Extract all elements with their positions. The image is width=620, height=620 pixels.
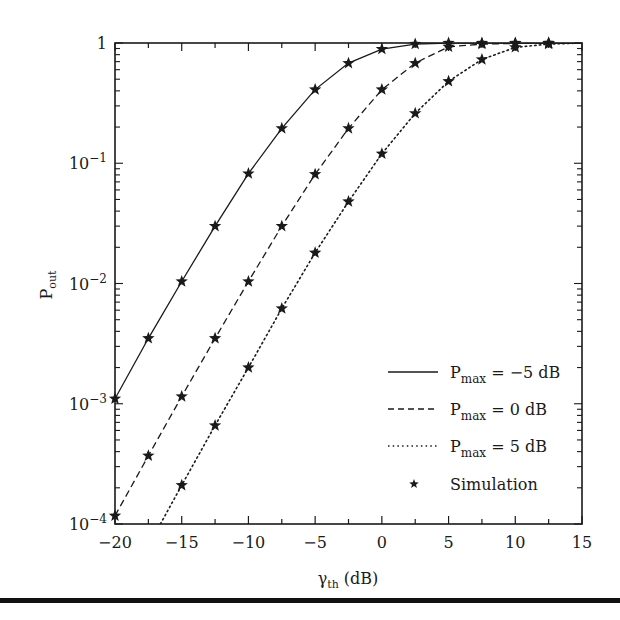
legend-label: Pmax = −5 dB: [450, 363, 560, 386]
y-tick-label: 10−3: [69, 392, 107, 414]
chart-legend: Pmax = −5 dBPmax = 0 dBPmax = 5 dBSimula…: [388, 363, 560, 494]
legend-item: Simulation: [409, 475, 537, 494]
y-tick-label: 10−1: [69, 151, 107, 173]
x-tick-label: −20: [98, 533, 132, 552]
bottom-rule-divider: [0, 598, 620, 603]
star-icon: [309, 246, 321, 258]
outage-probability-chart: −20−15−10−5051015110−110−210−310−4 Pmax …: [0, 0, 620, 620]
star-icon: [242, 167, 254, 179]
star-icon: [176, 479, 188, 491]
star-icon: [342, 195, 354, 207]
y-axis-label: Pout: [37, 270, 59, 299]
legend-item: Pmax = −5 dB: [388, 363, 560, 386]
star-icon: [342, 122, 354, 134]
x-tick-label: 15: [572, 533, 592, 552]
star-icon: [142, 332, 154, 344]
star-icon: [309, 168, 321, 180]
star-icon: [376, 83, 388, 95]
y-tick-label: 10−4: [69, 512, 107, 534]
series-line-solid: [115, 43, 582, 399]
x-tick-label: −5: [303, 533, 327, 552]
legend-item: Pmax = 0 dB: [388, 400, 547, 423]
star-icon: [409, 479, 419, 488]
star-icon: [276, 302, 288, 314]
x-tick-label: −10: [232, 533, 266, 552]
star-icon: [442, 75, 454, 87]
y-tick-label: 1: [97, 34, 107, 53]
legend-label: Pmax = 0 dB: [450, 400, 547, 423]
star-icon: [309, 83, 321, 95]
legend-label: Pmax = 5 dB: [450, 437, 547, 460]
star-icon: [176, 275, 188, 287]
star-icon: [176, 390, 188, 402]
star-icon: [209, 419, 221, 431]
star-icon: [209, 220, 221, 232]
y-tick-label: 10−2: [69, 272, 107, 294]
star-icon: [209, 332, 221, 344]
x-axis-label: γth (dB): [318, 569, 379, 591]
star-icon: [276, 220, 288, 232]
star-icon: [242, 275, 254, 287]
x-tick-label: 10: [505, 533, 525, 552]
legend-item: Pmax = 5 dB: [388, 437, 547, 460]
x-tick-label: 5: [443, 533, 453, 552]
legend-label: Simulation: [450, 475, 538, 494]
star-icon: [142, 449, 154, 461]
x-tick-label: −15: [165, 533, 199, 552]
star-icon: [242, 361, 254, 373]
x-tick-label: 0: [377, 533, 387, 552]
